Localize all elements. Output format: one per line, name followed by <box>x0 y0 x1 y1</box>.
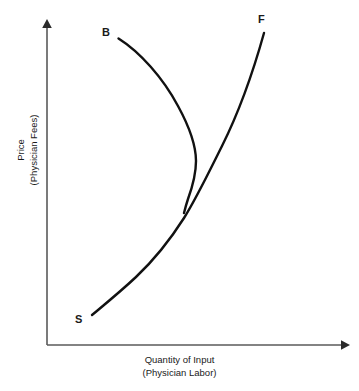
x-axis-title-line1: Quantity of Input <box>145 354 215 365</box>
curve-sf-upward-sloping <box>92 33 264 315</box>
y-axis-title-line1: Price <box>15 139 26 161</box>
x-axis-title-line2: (Physician Labor) <box>0 367 359 380</box>
chart-plot-area <box>0 0 359 391</box>
curve-b-backward-bending-supply <box>119 39 197 214</box>
y-axis-title-line2: (Physician Fees) <box>28 80 41 220</box>
x-axis-title: Quantity of Input (Physician Labor) <box>0 354 359 379</box>
curve-label-s: S <box>75 314 83 325</box>
curve-label-f: F <box>258 14 265 25</box>
x-axis-arrowhead <box>341 340 350 350</box>
curve-label-b: B <box>102 27 110 38</box>
y-axis-arrowhead <box>42 19 52 28</box>
y-axis-title: Price (Physician Fees) <box>15 80 45 220</box>
chart-figure: B F S Quantity of Input (Physician Labor… <box>0 0 359 391</box>
